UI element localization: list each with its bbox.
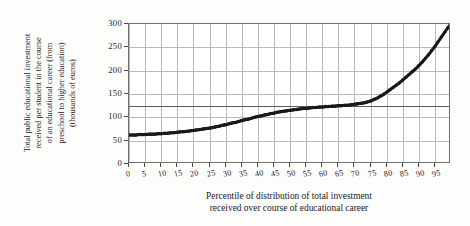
y-tick-mark <box>124 70 128 71</box>
x-tick-label: 30 <box>222 168 232 179</box>
x-tick-mark <box>144 163 145 167</box>
x-tick-mark <box>225 163 226 167</box>
x-tick-label: 60 <box>318 168 328 179</box>
plot-area <box>128 23 450 163</box>
x-tick-mark <box>386 163 387 167</box>
y-axis-title-line-5: (thousands of euros) <box>67 34 78 153</box>
x-tick-mark <box>160 163 161 167</box>
x-tick-label: 45 <box>270 168 280 179</box>
y-axis-title: Total public educational investment rece… <box>0 0 100 186</box>
chart-figure: Total public educational investment rece… <box>0 0 470 226</box>
x-tick-label: 65 <box>334 168 344 179</box>
x-tick-mark <box>289 163 290 167</box>
y-axis-title-line-2: received per student in the course <box>33 34 44 153</box>
x-tick-mark <box>257 163 258 167</box>
y-tick-label: 300 <box>94 18 122 28</box>
x-tick-mark <box>418 163 419 167</box>
data-point <box>449 24 450 26</box>
x-tick-label: 80 <box>383 168 393 179</box>
y-tick-mark <box>124 93 128 94</box>
x-tick-label: 20 <box>189 168 199 179</box>
y-axis-title-line-3: of an educational career (from <box>44 34 55 153</box>
x-tick-label: 25 <box>206 168 216 179</box>
x-tick-label: 0 <box>125 169 131 179</box>
x-tick-mark <box>176 163 177 167</box>
x-tick-mark <box>337 163 338 167</box>
x-tick-mark <box>305 163 306 167</box>
y-tick-label: 100 <box>94 111 122 121</box>
data-series-curve <box>129 24 450 163</box>
x-tick-label: 5 <box>141 169 147 179</box>
y-tick-mark <box>124 23 128 24</box>
x-tick-mark <box>192 163 193 167</box>
x-axis-title-line-1: Percentile of distribution of total inve… <box>128 190 450 202</box>
x-tick-label: 55 <box>302 168 312 179</box>
x-tick-mark <box>128 163 129 167</box>
x-tick-mark <box>434 163 435 167</box>
x-tick-label: 50 <box>286 168 296 179</box>
x-tick-label: 75 <box>367 168 377 179</box>
y-tick-label: 50 <box>94 135 122 145</box>
x-tick-label: 90 <box>415 168 425 179</box>
x-tick-label: 85 <box>399 168 409 179</box>
y-tick-mark <box>124 140 128 141</box>
x-tick-mark <box>370 163 371 167</box>
y-axis-title-line-1: Total public educational investment <box>22 34 33 153</box>
y-tick-label: 150 <box>94 88 122 98</box>
y-tick-label: 250 <box>94 41 122 51</box>
x-tick-mark <box>241 163 242 167</box>
x-tick-label: 35 <box>238 168 248 179</box>
x-tick-mark <box>402 163 403 167</box>
x-axis-title: Percentile of distribution of total inve… <box>128 190 450 214</box>
x-tick-mark <box>209 163 210 167</box>
y-tick-label: 0 <box>94 158 122 168</box>
x-tick-label: 15 <box>173 168 183 179</box>
x-tick-label: 40 <box>254 168 264 179</box>
y-axis-title-line-4: preschool to higher education) <box>56 34 67 153</box>
x-tick-label: 10 <box>157 168 167 179</box>
x-tick-label: 95 <box>431 168 441 179</box>
x-tick-mark <box>273 163 274 167</box>
x-axis-title-line-2: received over course of educational care… <box>128 202 450 214</box>
x-tick-label: 70 <box>350 168 360 179</box>
y-tick-label: 200 <box>94 65 122 75</box>
y-tick-mark <box>124 46 128 47</box>
x-tick-mark <box>321 163 322 167</box>
y-tick-mark <box>124 116 128 117</box>
x-tick-mark <box>353 163 354 167</box>
